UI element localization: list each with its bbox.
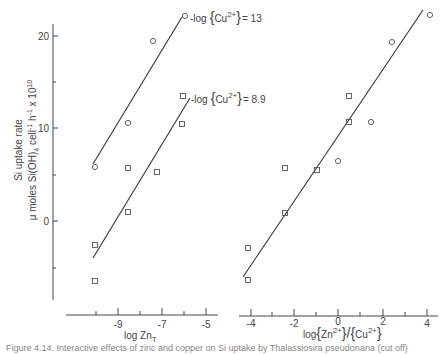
- y-axis-title: Si uptake rate μ moles Si(OH)4 cell-1 h-…: [13, 80, 40, 221]
- svg-text:μ moles Si(OH)4 cell-1 h-1 x: μ moles Si(OH)4 cell-1 h-1 x 1010: [26, 80, 40, 221]
- left-circle-markers: [92, 13, 187, 169]
- left-square-markers: [93, 94, 186, 284]
- left-x-axis-label: log ZnT: [124, 330, 157, 344]
- right-square-markers: [246, 94, 352, 283]
- figure-caption: Figure 4.14. Interactive effects of zinc…: [6, 343, 446, 353]
- chart-figure: 20 10 0 -9 -7 -5 log ZnT Si uptake rate …: [0, 0, 448, 354]
- right-x-axis: [239, 309, 438, 316]
- x-tick--7: -7: [158, 319, 167, 330]
- left-fit-line-cu8-9: [93, 98, 190, 258]
- left-fit-line-cu13: [93, 17, 182, 164]
- left-y-axis: [53, 24, 58, 300]
- y-tick-0: 0: [43, 216, 49, 227]
- y-tick-10: 10: [38, 123, 50, 134]
- right-fit-line: [243, 10, 423, 277]
- x-tick--5: -5: [202, 319, 211, 330]
- annotation-cu13: -log{Cu2+}= 13: [190, 9, 262, 25]
- svg-text:-2: -2: [290, 318, 299, 329]
- annotation-cu8-9: -log{Cu2+}= 8.9: [191, 90, 266, 106]
- right-x-axis-label: log{Zn2+}/{Cu2+}: [303, 325, 382, 341]
- right-circle-markers: [335, 12, 432, 163]
- left-x-tick-labels: -9 -7 -5: [114, 319, 211, 330]
- svg-text:4: 4: [424, 318, 430, 329]
- y-tick-20: 20: [38, 31, 50, 42]
- x-tick--9: -9: [114, 319, 123, 330]
- left-x-axis: [66, 308, 218, 315]
- svg-text:Si uptake rate: Si uptake rate: [13, 119, 24, 181]
- left-y-tick-labels: 20 10 0: [38, 31, 50, 227]
- svg-text:-4: -4: [247, 318, 256, 329]
